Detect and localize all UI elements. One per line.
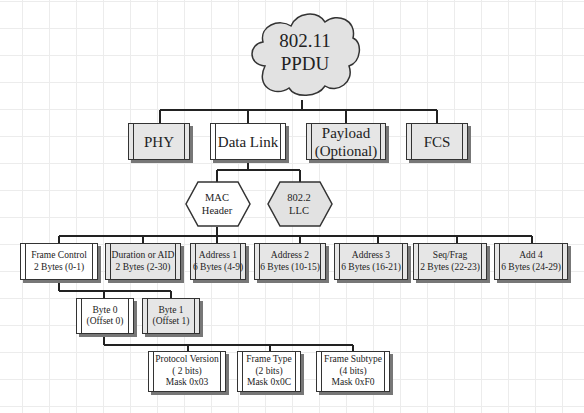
node-payload: Payload (Optional): [306, 123, 386, 160]
node-data-link: Data Link: [210, 123, 286, 160]
field-frame-subtype: Frame Subtype (4 bits) Mask 0xF0: [316, 351, 390, 392]
mac-header-line1: MAC: [205, 191, 229, 204]
field-name: Duration or AID: [112, 250, 175, 261]
node-phy-label: PHY: [144, 133, 174, 151]
field-address-2: Address 2 6 Bytes (10-15): [254, 243, 326, 280]
node-data-link-label: Data Link: [218, 133, 278, 151]
field-size: 6 Bytes (10-15): [260, 262, 320, 273]
node-byte-1: Byte 1 (Offset 1): [142, 298, 200, 334]
mac-header-line2: Header: [202, 204, 232, 217]
node-phy: PHY: [128, 123, 190, 160]
byte-name: Byte 0: [92, 305, 117, 316]
field-seq-frag: Seq/Frag 2 Bytes (22-23): [413, 243, 487, 280]
field-frame-type: Frame Type (2 bits) Mask 0x0C: [237, 351, 301, 392]
node-fcs-label: FCS: [424, 133, 451, 151]
field-name: Frame Control: [31, 250, 87, 261]
field-size: 6 Bytes (24-29): [501, 262, 561, 273]
field-name: Frame Subtype: [324, 354, 382, 365]
field-mask: Mask 0x03: [166, 377, 209, 388]
node-byte-0: Byte 0 (Offset 0): [76, 298, 134, 334]
field-bits: (4 bits): [339, 366, 366, 377]
field-mask: Mask 0x0C: [247, 377, 291, 388]
field-size: 6 Bytes (16-21): [341, 262, 401, 273]
field-frame-control: Frame Control 2 Bytes (0-1): [20, 243, 98, 280]
root-line2: PPDU: [281, 53, 330, 76]
field-bits: (2 bits): [255, 366, 282, 377]
llc-line2: LLC: [289, 204, 309, 217]
field-address-1: Address 1 6 Bytes (4-9): [190, 243, 246, 280]
field-mask: Mask 0xF0: [331, 377, 374, 388]
field-name: Seq/Frag: [433, 250, 467, 261]
field-name: Add 4: [519, 250, 543, 261]
root-node-802-11-ppdu: 802.11 PPDU: [255, 22, 355, 84]
field-name: Address 3: [352, 250, 390, 261]
field-bits: ( 2 bits): [172, 366, 202, 377]
field-name: Frame Type: [246, 354, 291, 365]
byte-offset: (Offset 1): [152, 316, 189, 327]
field-add-4: Add 4 6 Bytes (24-29): [494, 243, 568, 280]
field-name: Protocol Version: [155, 354, 218, 365]
field-protocol-version: Protocol Version ( 2 bits) Mask 0x03: [148, 351, 226, 392]
node-802-2-llc: 802.2 LLC: [266, 181, 332, 227]
root-line1: 802.11: [279, 30, 331, 53]
field-size: 6 Bytes (4-9): [193, 262, 243, 273]
field-size: 2 Bytes (2-30): [116, 262, 171, 273]
node-payload-line2: (Optional): [315, 142, 377, 160]
node-payload-line1: Payload: [322, 124, 370, 142]
field-name: Address 2: [271, 250, 309, 261]
node-fcs: FCS: [406, 123, 468, 160]
byte-name: Byte 1: [158, 305, 183, 316]
field-duration-aid: Duration or AID 2 Bytes (2-30): [105, 243, 181, 280]
field-address-3: Address 3 6 Bytes (16-21): [334, 243, 408, 280]
llc-line1: 802.2: [287, 191, 311, 204]
field-size: 2 Bytes (22-23): [420, 262, 480, 273]
field-size: 2 Bytes (0-1): [34, 262, 84, 273]
byte-offset: (Offset 0): [86, 316, 123, 327]
node-mac-header: MAC Header: [184, 181, 250, 227]
field-name: Address 1: [199, 250, 237, 261]
